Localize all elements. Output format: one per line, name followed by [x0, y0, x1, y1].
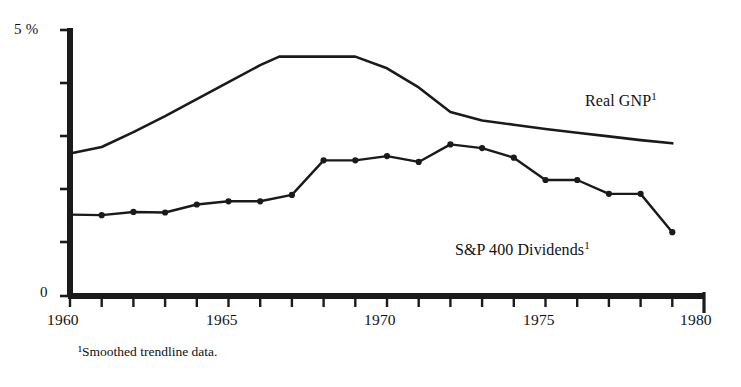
- series-data-point: [162, 209, 168, 215]
- series-data-point: [67, 212, 73, 218]
- series-data-point: [606, 191, 612, 197]
- series-data-point: [321, 157, 327, 163]
- chart-footnote: ¹Smoothed trendline data.: [78, 344, 217, 360]
- series-data-point: [447, 141, 453, 147]
- chart-figure: 5 % 0 1960 1965 1970 1975 1980 Real GNP1…: [0, 0, 741, 387]
- series-data-point: [479, 145, 485, 151]
- series-data-point: [669, 229, 675, 235]
- series-data-point: [257, 198, 263, 204]
- series-data-point: [574, 177, 580, 183]
- series-data-point: [289, 192, 295, 198]
- x-axis-label-1965: 1965: [206, 311, 238, 329]
- series-data-point: [511, 155, 517, 161]
- x-axis-label-1980: 1980: [680, 311, 712, 329]
- x-axis-label-1970: 1970: [364, 311, 396, 329]
- series-data-point: [542, 177, 548, 183]
- y-axis-label-bottom: 0: [40, 284, 48, 301]
- series-label-real-gnp: Real GNP1: [585, 92, 657, 110]
- series-data-point: [352, 157, 358, 163]
- x-axis-label-1960: 1960: [47, 311, 79, 329]
- series-data-point: [638, 191, 644, 197]
- series-sp-400-dividends: [67, 141, 676, 235]
- series-data-point: [225, 198, 231, 204]
- series-data-point: [130, 209, 136, 215]
- series-label-real-gnp-footnote-marker: 1: [651, 90, 657, 102]
- x-axis-label-1975: 1975: [523, 311, 555, 329]
- series-data-point: [416, 159, 422, 165]
- series-real-gnp: [70, 57, 672, 154]
- series-label-sp-400-dividends-text: S&P 400 Dividends: [455, 241, 584, 258]
- series-line: [70, 144, 672, 232]
- series-line: [70, 57, 672, 154]
- series-label-real-gnp-text: Real GNP: [585, 92, 651, 109]
- series-data-point: [99, 212, 105, 218]
- series-data-point: [194, 201, 200, 207]
- series-label-sp-400-dividends-footnote-marker: 1: [584, 239, 590, 251]
- series-data-point: [384, 153, 390, 159]
- series-label-sp-400-dividends: S&P 400 Dividends1: [455, 241, 590, 259]
- y-axis-label-top: 5 %: [14, 21, 38, 38]
